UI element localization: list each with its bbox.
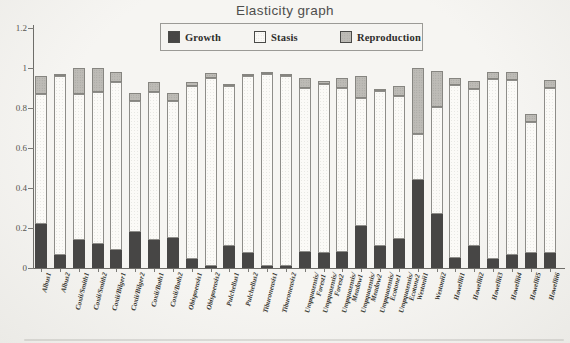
y-tick-label: 0.6 [3, 143, 27, 153]
y-tick-mark [28, 148, 34, 149]
y-tick-label: 1.2 [3, 23, 27, 33]
bar-segment-growth [261, 266, 273, 268]
x-tick-mark [361, 269, 362, 272]
x-axis-label: Howellii5 [529, 272, 543, 301]
x-tick-mark [154, 269, 155, 272]
bar-segment-growth [374, 246, 386, 268]
x-tick-mark [512, 269, 513, 272]
x-tick-mark [60, 269, 61, 272]
x-tick-mark [437, 269, 438, 272]
x-tick-mark [550, 269, 551, 272]
elasticity-stacked-bar-chart: Elasticity graph GrowthStasisReproductio… [0, 0, 570, 343]
chart-title: Elasticity graph [0, 3, 570, 18]
bar-segment-stasis [205, 78, 217, 266]
y-tick-mark [28, 188, 34, 189]
x-tick-mark [173, 269, 174, 272]
bar-segment-growth [336, 252, 348, 268]
y-tick-mark [28, 268, 34, 269]
y-tick-mark [28, 28, 34, 29]
x-tick-mark [248, 269, 249, 272]
bar-segment-reproduction [487, 72, 499, 79]
bar-segment-stasis [242, 76, 254, 253]
x-tick-mark [98, 269, 99, 272]
bar-segment-growth [431, 214, 443, 268]
y-tick-label: 0 [3, 263, 27, 273]
x-axis-label: Tiburonensis2 [281, 272, 298, 314]
bar-segment-stasis [73, 94, 85, 240]
bar-segment-growth [393, 239, 405, 268]
x-axis-label: Coxii/Both2 [169, 272, 184, 308]
x-axis-label: Albus2 [60, 272, 72, 293]
bar-segment-reproduction [374, 89, 386, 91]
bar-segment-stasis [129, 101, 141, 232]
bar-segment-reproduction [318, 81, 330, 84]
bar-segment-growth [355, 226, 367, 268]
bar-segment-reproduction [92, 68, 104, 92]
bar-segment-reproduction [280, 74, 292, 76]
bar-segment-stasis [487, 79, 499, 259]
x-axis-label: Obispoensis1 [188, 272, 204, 311]
x-tick-mark [286, 269, 287, 272]
x-tick-mark [41, 269, 42, 272]
y-tick-label: 1 [3, 63, 27, 73]
x-tick-mark [474, 269, 475, 272]
bar-segment-stasis [35, 94, 47, 224]
bar-segment-growth [449, 258, 461, 268]
x-tick-mark [493, 269, 494, 272]
reproduction-swatch-icon [340, 31, 352, 43]
x-tick-mark [455, 269, 456, 272]
bar-segment-reproduction [355, 76, 367, 98]
bar-segment-growth [242, 253, 254, 268]
legend-label-stasis: Stasis [271, 32, 298, 43]
bar-segment-reproduction [449, 78, 461, 85]
bar-segment-growth [223, 246, 235, 268]
bar-segment-stasis [299, 88, 311, 252]
x-axis-label: Coxii/Both1 [151, 272, 166, 308]
x-tick-mark [211, 269, 212, 272]
bar-segment-reproduction [223, 84, 235, 86]
bar-segment-stasis [431, 107, 443, 214]
bar-segment-reproduction [148, 82, 160, 92]
x-axis-label: Howellii1 [454, 272, 468, 301]
bar-segment-stasis [148, 92, 160, 240]
legend-item-reproduction: Reproduction [340, 31, 421, 43]
bar-segment-reproduction [167, 93, 179, 101]
bar-segment-stasis [525, 122, 537, 253]
bar-segment-growth [110, 250, 122, 268]
bar-segment-reproduction [299, 78, 311, 88]
bar-segment-growth [73, 240, 85, 268]
x-tick-mark [116, 269, 117, 272]
bar-segment-growth [129, 232, 141, 268]
bar-segment-stasis [449, 85, 461, 258]
x-tick-mark [79, 269, 80, 272]
bar-segment-stasis [223, 86, 235, 246]
bar-segment-growth [506, 255, 518, 268]
bar-segment-reproduction [468, 81, 480, 89]
x-tick-mark [324, 269, 325, 272]
legend-label-reproduction: Reproduction [357, 32, 421, 43]
legend-item-stasis: Stasis [254, 31, 298, 43]
bar-segment-growth [318, 253, 330, 268]
x-axis-label: Pulchellus2 [245, 272, 260, 307]
y-tick-mark [28, 68, 34, 69]
bar-segment-reproduction [205, 73, 217, 78]
y-tick-label: 0.4 [3, 183, 27, 193]
bar-segment-reproduction [393, 86, 405, 96]
x-tick-mark [267, 269, 268, 272]
bar-segment-stasis [393, 96, 405, 239]
growth-swatch-icon [168, 31, 180, 43]
bar-segment-reproduction [54, 74, 66, 76]
bar-segment-reproduction [431, 71, 443, 107]
bar-segment-stasis [92, 92, 104, 244]
stasis-swatch-icon [254, 31, 266, 43]
bar-segment-stasis [506, 80, 518, 255]
bar-segment-growth [487, 259, 499, 268]
bar-segment-reproduction [186, 82, 198, 86]
bar-segment-stasis [167, 101, 179, 238]
x-axis-label: Howellii3 [491, 272, 505, 301]
x-tick-mark [531, 269, 532, 272]
bar-segment-reproduction [261, 72, 273, 74]
x-axis-label: Coxii/Bilger2 [131, 272, 147, 311]
bar-segment-stasis [54, 76, 66, 255]
x-tick-mark [135, 269, 136, 272]
